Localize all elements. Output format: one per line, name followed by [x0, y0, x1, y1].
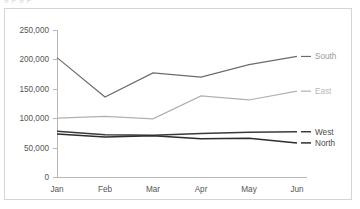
series-line-north: [57, 134, 297, 143]
y-tick-label: 50,000: [24, 144, 49, 153]
y-tick-label: 0: [44, 173, 49, 182]
series-line-east: [57, 91, 297, 119]
y-axis: 050,000100,000150,000200,000250,000: [19, 26, 57, 182]
series-line-west: [57, 131, 297, 135]
y-tick-label: 250,000: [19, 26, 49, 35]
series-lines: [57, 56, 297, 142]
x-tick-label: Jun: [290, 185, 304, 194]
y-tick-label: 200,000: [19, 55, 49, 64]
x-tick-label: May: [241, 185, 257, 194]
series-label-east: East: [315, 87, 332, 96]
clipped-header-text: g p g p: [4, 0, 356, 3]
y-tick-label: 150,000: [19, 85, 49, 94]
x-tick-label: Apr: [195, 185, 208, 194]
chart-frame: 050,000100,000150,000200,000250,000 JanF…: [4, 8, 352, 200]
x-tick-label: Mar: [146, 185, 160, 194]
series-labels: SouthEastWestNorth: [301, 52, 337, 147]
y-tick-label: 100,000: [19, 114, 49, 123]
line-chart: 050,000100,000150,000200,000250,000 JanF…: [5, 9, 353, 201]
series-label-west: West: [315, 128, 334, 137]
x-axis: JanFebMarAprMayJun: [50, 178, 307, 195]
series-label-north: North: [315, 139, 335, 148]
series-label-south: South: [315, 52, 337, 61]
series-line-south: [57, 56, 297, 97]
x-tick-label: Jan: [50, 185, 64, 194]
x-tick-label: Feb: [98, 185, 113, 194]
